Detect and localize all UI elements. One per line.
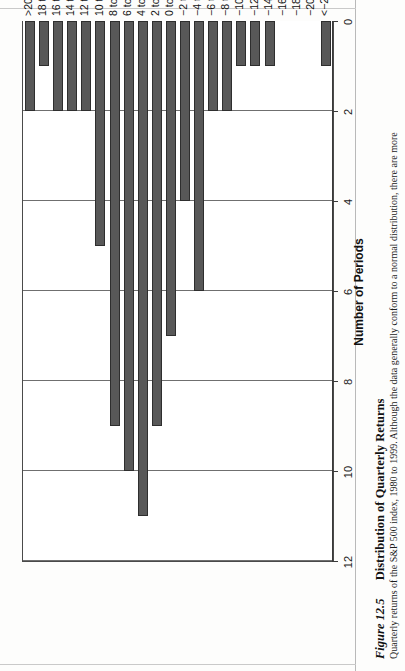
category-axis-label: 2 to 4 xyxy=(149,0,161,16)
bar xyxy=(95,21,105,246)
bar xyxy=(321,21,331,66)
bar xyxy=(67,21,77,111)
figure-caption: Figure 12.5 Distribution of Quarterly Re… xyxy=(355,0,405,671)
bar xyxy=(208,21,218,111)
bar xyxy=(152,21,162,426)
bar xyxy=(138,21,148,516)
gridline xyxy=(23,560,333,561)
figure-rotated-container: Number of Periods Percent 024681012>2018… xyxy=(0,0,402,640)
bar xyxy=(194,21,204,291)
caption-title-line: Figure 12.5 Distribution of Quarterly Re… xyxy=(373,399,388,659)
category-axis-label: −12 to −10 xyxy=(248,0,260,16)
value-axis-tick xyxy=(333,201,338,202)
category-axis-label: −10 to −8 xyxy=(233,0,245,16)
gridline xyxy=(23,290,333,291)
category-axis-label: 0 to 2 xyxy=(163,0,175,16)
gridline xyxy=(23,380,333,381)
value-axis-tick-label: 6 xyxy=(342,279,354,305)
category-axis-label: −8 to −6 xyxy=(219,0,231,16)
value-axis-tick-label: 10 xyxy=(342,459,354,485)
bar-chart: Number of Periods Percent 024681012>2018… xyxy=(0,0,402,640)
category-axis-label: 18 to 20 xyxy=(36,0,48,16)
bar xyxy=(81,21,91,111)
bar xyxy=(39,21,49,66)
value-axis-tick-label: 2 xyxy=(342,99,354,125)
category-axis-label: 14 to 16 xyxy=(64,0,76,16)
value-axis-tick xyxy=(333,561,338,562)
category-axis-label: −4 to −2 xyxy=(191,0,203,16)
category-axis-label: −14 to −12 xyxy=(262,0,274,16)
category-axis-label: <−20 xyxy=(318,0,330,16)
scanned-page: Number of Periods Percent 024681012>2018… xyxy=(0,0,405,671)
plot-area xyxy=(22,21,334,562)
caption-description: Quarterly returns of the S&P 500 index, … xyxy=(388,132,399,659)
bar xyxy=(250,21,260,66)
gridline xyxy=(23,470,333,471)
bar xyxy=(166,21,176,336)
page-bottom-line xyxy=(0,664,356,665)
category-axis-label: −20 to −18 xyxy=(304,0,316,16)
value-axis-tick-label: 4 xyxy=(342,189,354,215)
category-axis-label: −6 to −4 xyxy=(205,0,217,16)
category-axis-label: −18 to −16 xyxy=(290,0,302,16)
value-axis-tick xyxy=(333,111,338,112)
value-axis-tick-label: 0 xyxy=(342,9,354,35)
bar xyxy=(124,21,134,471)
value-axis-tick-label: 12 xyxy=(342,549,354,575)
bar xyxy=(265,21,275,66)
bar xyxy=(236,21,246,66)
category-axis-label: 10 to 12 xyxy=(93,0,105,16)
bar xyxy=(222,21,232,111)
category-axis-label: 16 to 18 xyxy=(50,0,62,16)
value-axis-tick xyxy=(333,381,338,382)
bar xyxy=(180,21,190,201)
category-axis-label: −2 to 0 xyxy=(177,0,189,16)
category-axis-label: >20 xyxy=(22,0,34,16)
value-axis-tick xyxy=(333,21,338,22)
bar xyxy=(110,21,120,426)
caption-title-text: Distribution of Quarterly Returns xyxy=(373,399,387,581)
category-axis-label: 6 to 8 xyxy=(121,0,133,16)
gridline xyxy=(23,200,333,201)
caption-figure-number: Figure 12.5 xyxy=(373,599,387,659)
bar xyxy=(53,21,63,111)
bar xyxy=(25,21,35,111)
value-axis-tick xyxy=(333,291,338,292)
category-axis-label: 8 to 10 xyxy=(107,0,119,16)
value-axis-tick xyxy=(333,471,338,472)
category-axis-label: 4 to 6 xyxy=(135,0,147,16)
category-axis-label: 12 to 14 xyxy=(78,0,90,16)
value-axis-tick-label: 8 xyxy=(342,369,354,395)
category-axis-label: −16 to −14 xyxy=(276,0,288,16)
